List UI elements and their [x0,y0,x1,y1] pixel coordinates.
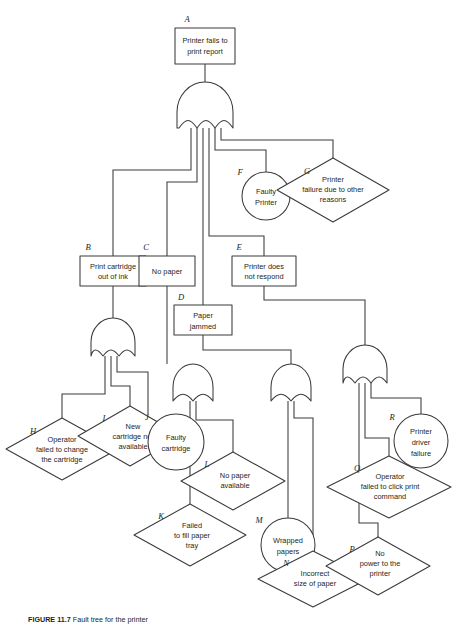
node-E-line1: Printer does [244,262,284,271]
node-H-line1: Operator [47,435,77,444]
fault-tree-figure: A Printer fails to print report B Print … [0,0,473,630]
node-A-line2: print report [187,47,223,56]
node-H-line2: failed to change [36,445,88,454]
wire-gate-to-h [62,356,105,418]
node-C-line1: No paper [152,267,183,276]
gate-jam-or-symbol [271,364,311,401]
node-J-circle [148,414,204,470]
node-K-line3: tray [186,541,199,550]
gate-paper-or-symbol [173,364,213,401]
figure-caption-prefix: FIGURE 11.7 [28,615,71,624]
wire-gate-to-f [215,128,266,172]
gate-cartridge-or-symbol [91,318,135,356]
node-B-line1: Print cartridge [90,262,136,271]
node-K-line2: to fill paper [174,531,211,540]
node-A-line1: Printer fails to [182,36,227,45]
node-P-line1: No [375,549,384,558]
figure-caption: FIGURE 11.7 Fault tree for the printer [28,615,458,624]
node-D-id: D [177,292,185,302]
node-K[interactable]: K Failed to fill paper tray [134,504,246,566]
node-B-line2: out of ink [98,272,128,281]
node-L-line2: available [220,481,249,490]
node-H-id: H [29,426,37,436]
wire-gate-to-c [167,128,197,256]
node-N-line2: size of paper [294,579,337,588]
node-L-line1: No paper [220,471,251,480]
node-B-box [80,256,146,286]
node-M-line1: Wrapped [273,536,303,545]
node-Q-line2: failed to click print [361,482,420,491]
node-G-line1: Printer [322,175,344,184]
node-N-line1: Incorrect [301,569,330,578]
node-R-id: R [388,412,395,422]
node-P-line3: printer [370,569,391,578]
wire-gate-to-p [359,383,378,537]
node-G-id: G [304,166,311,176]
node-K-line1: Failed [182,521,202,530]
node-J-line2: cartridge [162,444,191,453]
node-E-id: E [235,242,242,252]
node-Q-line1: Operator [375,472,405,481]
wire-gate-to-i [111,356,130,406]
gate-jam [271,364,311,401]
node-R-line3: failure [411,449,431,458]
node-I-line3: available [118,442,147,451]
node-L-id: L [204,459,210,469]
node-F-id: F [236,167,243,177]
node-A[interactable]: A Printer fails to print report [175,14,235,64]
gate-paper [173,364,213,401]
node-G[interactable]: G Printer failure due to other reasons [277,158,389,222]
node-G-line2: failure due to other [302,185,364,194]
gate-top-or-symbol [177,82,233,128]
node-F-line1: Faulty [256,187,276,196]
figure-caption-text: Fault tree for the printer [73,615,148,624]
node-E-line2: not respond [244,272,283,281]
node-C-id: C [143,242,149,252]
node-Q-line3: command [374,492,406,501]
wire-e-to-gate [264,286,365,346]
node-M-id: M [254,515,263,525]
wire-gate-to-b [113,128,191,256]
node-F[interactable]: F Faulty Printer [236,167,290,220]
node-A-id: A [183,14,190,24]
node-J-line1: Faulty [166,433,186,442]
node-F-line2: Printer [255,198,277,207]
node-E-box [232,256,296,286]
node-P-line2: power to the [360,559,401,568]
node-R-line1: Printer [410,427,432,436]
wire-gate-to-j [117,356,148,414]
node-G-line3: reasons [320,195,347,204]
node-A-box [175,28,235,64]
node-D-line2: jammed [189,322,216,331]
node-F-circle [242,172,290,220]
node-B-id: B [85,242,91,252]
node-I-line1: New [126,422,141,431]
node-I-line2: cartridge not [112,432,153,441]
gate-cartridge [91,318,135,356]
node-H-line3: the cartridge [41,455,82,464]
wire-gate-to-g [221,128,333,158]
wire-d-to-gate [203,335,291,364]
wire-gate-to-q [365,383,389,456]
wire-gate-to-r [371,383,421,414]
gate-top [177,82,233,128]
node-R-line2: driver [412,438,431,447]
node-Q-id: Q [354,463,361,473]
node-M-line2: papers [277,547,300,556]
gate-respond [343,345,387,383]
node-P-id: P [348,544,355,554]
gate-respond-or-symbol [343,345,387,383]
node-D-line1: Paper [193,311,213,320]
fault-tree-canvas: A Printer fails to print report B Print … [0,0,473,630]
